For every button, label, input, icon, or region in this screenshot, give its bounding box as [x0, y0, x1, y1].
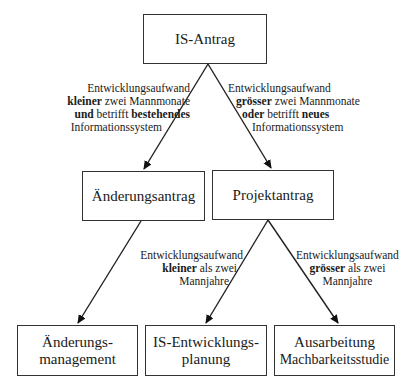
- edge-label-text: betrifft: [264, 108, 301, 120]
- edge-label-line: Mannjahre: [140, 275, 243, 288]
- edge-label-line: Informationssystem: [228, 121, 360, 134]
- edge-label-line: und betrifft bestehendes: [67, 108, 190, 121]
- node-projektantrag: Projektantrag: [212, 170, 334, 220]
- edge-label-bold: bestehendes: [131, 108, 190, 120]
- edge-label-line: Entwicklungsaufwand: [228, 82, 360, 95]
- arrow-to-aenderungsmanagement: [78, 221, 141, 323]
- edge-label-line: kleiner zwei Mannmonate: [67, 95, 190, 108]
- edge-label-bold: grösser: [309, 262, 345, 274]
- edge-label-bold: kleiner: [67, 95, 102, 107]
- edge-label-to-aenderungsantrag: Entwicklungsaufwand kleiner zwei Mannmon…: [67, 82, 190, 134]
- node-label: IS-Antrag: [175, 31, 235, 48]
- node-label-line2: Machbarkeitsstudie: [280, 351, 390, 368]
- node-is-entwicklungsplanung: IS-Entwicklungs- planung: [145, 325, 267, 376]
- edge-label-to-machbarkeitsstudie: Entwicklungsaufwand grösser als zwei Man…: [296, 249, 399, 288]
- edge-label-line: Entwicklungsaufwand: [140, 249, 243, 262]
- node-label: Änderungsantrag: [92, 188, 195, 205]
- node-aenderungsantrag: Änderungsantrag: [82, 171, 205, 221]
- edge-label-line: grösser zwei Mannmonate: [228, 95, 360, 108]
- edge-label-line: Mannjahre: [296, 275, 399, 288]
- edge-label-to-projektantrag: Entwicklungsaufwand grösser zwei Mannmon…: [228, 82, 360, 134]
- edge-label-bold: und: [75, 108, 94, 120]
- edge-label-bold: oder: [242, 108, 264, 120]
- edge-label-line: kleiner als zwei: [140, 262, 243, 275]
- edge-label-line: Informationssystem: [67, 121, 190, 134]
- node-label-line2: management: [39, 351, 116, 368]
- node-machbarkeitsstudie: Ausarbeitung Machbarkeitsstudie: [274, 325, 395, 376]
- node-label: Projektantrag: [233, 187, 314, 204]
- edge-label-to-entwicklungsplanung: Entwicklungsaufwand kleiner als zwei Man…: [140, 249, 243, 288]
- node-label-line2: planung: [182, 351, 230, 368]
- edge-label-line: Entwicklungsaufwand: [296, 249, 399, 262]
- node-label-line1: Änderungs-: [42, 334, 113, 351]
- edge-label-bold: kleiner: [162, 262, 197, 274]
- edge-label-text: zwei Mannmonate: [272, 95, 360, 107]
- node-aenderungsmanagement: Änderungs- management: [17, 325, 138, 376]
- edge-label-text: als zwei: [197, 262, 237, 274]
- edge-label-text: als zwei: [345, 262, 385, 274]
- edge-label-line: grösser als zwei: [296, 262, 399, 275]
- edge-label-text: zwei Mannmonate: [102, 95, 190, 107]
- node-label-line1: Ausarbeitung: [294, 334, 375, 351]
- node-is-antrag: IS-Antrag: [143, 14, 267, 64]
- edge-label-line: oder betrifft neues: [228, 108, 360, 121]
- edge-label-text: betrifft: [94, 108, 131, 120]
- node-label-line1: IS-Entwicklungs-: [153, 334, 259, 351]
- edge-label-bold: grösser: [236, 95, 272, 107]
- edge-label-line: Entwicklungsaufwand: [67, 82, 190, 95]
- edge-label-bold: neues: [302, 108, 329, 120]
